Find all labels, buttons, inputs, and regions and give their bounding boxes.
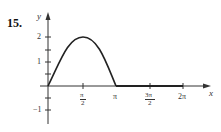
x-tick-3pi-over-2-num: 3π xyxy=(145,92,152,99)
y-tick-2: 2 xyxy=(37,33,41,41)
sine-curve xyxy=(48,37,116,86)
y-tick-1: 1 xyxy=(37,58,41,66)
y-axis-arrow-icon xyxy=(46,12,51,20)
x-axis-label: x xyxy=(209,89,213,98)
y-axis-label: y xyxy=(37,12,41,21)
y-tick-neg1: −1 xyxy=(33,106,42,114)
x-tick-pi-over-2-num: π xyxy=(80,92,84,99)
x-tick-pi-over-2-den: 2 xyxy=(81,100,85,107)
x-tick-pi: π xyxy=(113,93,117,101)
x-tick-3pi-over-2-den: 2 xyxy=(148,100,152,107)
x-tick-2pi: 2π xyxy=(178,93,186,101)
